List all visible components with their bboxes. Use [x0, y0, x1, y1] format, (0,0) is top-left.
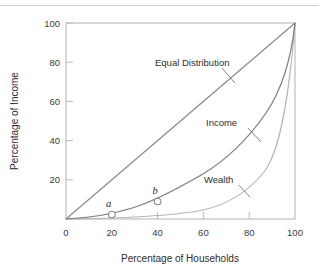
marker-a-circle[interactable]	[109, 211, 116, 218]
y-tick-label-40: 40	[49, 135, 60, 146]
x-tick-label-40: 40	[152, 227, 163, 238]
x-tick-label-80: 80	[244, 227, 255, 238]
x-axis-title: Percentage of Households	[121, 253, 239, 264]
x-tick-label-0: 0	[63, 227, 68, 238]
annotation-equal-distribution: Equal Distribution	[155, 57, 229, 68]
marker-b-circle[interactable]	[154, 198, 161, 205]
y-axis-ticks	[66, 23, 73, 180]
y-tick-label-20: 20	[49, 174, 60, 185]
y-tick-label-60: 60	[49, 96, 60, 107]
leader-wealth	[239, 185, 250, 197]
y-tick-label-80: 80	[49, 57, 60, 68]
x-tick-label-60: 60	[198, 227, 209, 238]
y-tick-label-100: 100	[44, 18, 60, 29]
chart-canvas: 100 80 60 40 20 0 20 40 60 80 100 Percen…	[0, 0, 319, 278]
y-tick-labels: 100 80 60 40 20	[44, 18, 60, 186]
marker-b-label: b	[152, 185, 157, 196]
leader-income	[248, 128, 261, 142]
lorenz-curve-figure: 100 80 60 40 20 0 20 40 60 80 100 Percen…	[0, 0, 319, 278]
marker-a-label: a	[106, 198, 111, 209]
annotation-wealth: Wealth	[204, 174, 233, 185]
y-axis-title: Percentage of Income	[9, 72, 20, 170]
annotation-income: Income	[206, 117, 237, 128]
x-tick-label-20: 20	[107, 227, 118, 238]
data-point-b[interactable]: b	[152, 185, 161, 205]
x-tick-labels: 0 20 40 60 80 100	[63, 227, 303, 238]
x-tick-label-100: 100	[287, 227, 303, 238]
